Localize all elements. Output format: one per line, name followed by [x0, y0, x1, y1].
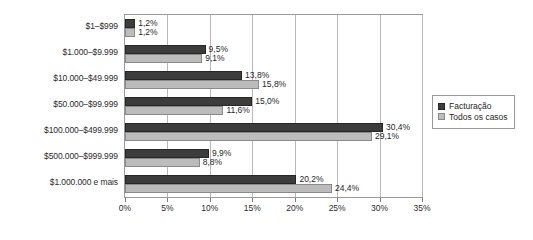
x-axis-tick-label: 30%	[371, 203, 388, 213]
bar-group: 20,2%24,4%	[125, 171, 422, 197]
chart-legend: FacturaçãoTodos os casos	[432, 95, 515, 129]
bar-value-label: 24,4%	[335, 184, 359, 193]
bar	[125, 123, 383, 132]
x-axis-tick-label: 0%	[119, 203, 131, 213]
bar	[125, 45, 206, 54]
bar	[125, 184, 332, 193]
bar-value-label: 11,6%	[226, 106, 249, 115]
bar-value-label: 15,8%	[262, 80, 286, 89]
category-label: $50.000–$99.999	[6, 100, 118, 109]
x-axis-tick	[337, 198, 338, 202]
bar	[125, 149, 209, 158]
x-axis-tick	[252, 198, 253, 202]
x-axis-tick-label: 20%	[286, 203, 303, 213]
bar-group: 9,9%8,8%	[125, 145, 422, 171]
x-axis-tick	[125, 198, 126, 202]
plot-area: 1,2%1,2%9,5%9,1%13,8%15,8%15,0%11,6%30,4…	[124, 14, 423, 198]
bar-group: 13,8%15,8%	[125, 67, 422, 93]
x-axis: 0%5%10%15%20%25%30%35%	[124, 198, 423, 220]
bar	[125, 106, 223, 115]
x-axis-tick-label: 15%	[244, 203, 261, 213]
bar	[125, 80, 259, 89]
bar	[125, 71, 242, 80]
bar-group: 30,4%29,1%	[125, 119, 422, 145]
x-axis-tick-label: 25%	[329, 203, 346, 213]
x-axis-tick	[210, 198, 211, 202]
category-label: $500.000–$999.999	[6, 152, 118, 161]
bar-value-label: 9,1%	[205, 54, 224, 63]
bar	[125, 132, 372, 141]
x-axis-tick	[295, 198, 296, 202]
bar-value-label: 29,1%	[375, 132, 399, 141]
category-label: $10.000–$49.999	[6, 74, 118, 83]
bar	[125, 175, 296, 184]
bar	[125, 158, 200, 167]
legend-swatch-icon	[438, 103, 445, 110]
category-label: $100.000–$499.999	[6, 126, 118, 135]
x-axis-tick-label: 5%	[161, 203, 173, 213]
bar-value-label: 1,2%	[138, 28, 157, 37]
bar-value-label: 20,2%	[299, 175, 323, 184]
legend-item: Todos os casos	[438, 113, 508, 122]
bar-group: 1,2%1,2%	[125, 15, 422, 41]
category-label: $1.000.000 e mais	[6, 178, 118, 187]
category-label: $1.000–$9.999	[6, 48, 118, 57]
bar	[125, 19, 135, 28]
bar-value-label: 8,8%	[203, 158, 222, 167]
bar-group: 9,5%9,1%	[125, 41, 422, 67]
category-axis: $1–$999$1.000–$9.999$10.000–$49.999$50.0…	[6, 14, 118, 198]
legend-label: Todos os casos	[449, 113, 508, 122]
x-axis-tick	[422, 198, 423, 202]
x-axis-tick-label: 35%	[413, 203, 430, 213]
x-axis-tick	[380, 198, 381, 202]
legend-item: Facturação	[438, 102, 508, 111]
bar-chart: $1–$999$1.000–$9.999$10.000–$49.999$50.0…	[0, 0, 533, 240]
legend-label: Facturação	[449, 102, 492, 111]
x-axis-tick-label: 10%	[201, 203, 218, 213]
bar	[125, 54, 202, 63]
legend-swatch-icon	[438, 113, 445, 120]
category-label: $1–$999	[6, 22, 118, 31]
x-axis-tick	[167, 198, 168, 202]
gridline	[422, 15, 423, 197]
bar-group: 15,0%11,6%	[125, 93, 422, 119]
bar-value-label: 15,0%	[255, 97, 279, 106]
bar	[125, 28, 135, 37]
